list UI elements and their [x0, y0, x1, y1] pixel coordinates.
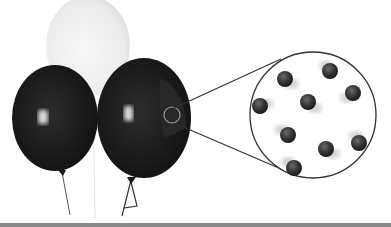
balloon-particle-diagram [0, 0, 391, 227]
magnified-view [250, 52, 376, 178]
bottom-border [0, 223, 391, 227]
right-balloon-string [122, 180, 137, 216]
left-dark-balloon [12, 65, 98, 176]
left-balloon-string [62, 172, 70, 215]
